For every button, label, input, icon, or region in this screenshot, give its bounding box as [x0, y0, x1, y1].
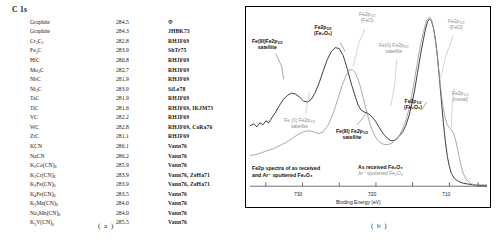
cell-reference: RHJF69 — [168, 54, 240, 64]
cell-binding-energy: 281.1 — [116, 131, 168, 141]
table-row: K3Mn(CN)6284.0Vann76 — [12, 197, 240, 207]
cell-binding-energy: 281.6 — [116, 102, 168, 112]
c1s-heading: C 1s — [12, 5, 27, 14]
cell-binding-energy: 281.9 — [116, 92, 168, 102]
cell-species: NaCN — [12, 150, 116, 160]
x-axis-title: Binding Energy (eV) — [336, 199, 381, 205]
cell-binding-energy: 282.7 — [116, 64, 168, 74]
cell-reference: RHJF69 — [168, 64, 240, 74]
c1s-table-body: Graphite284.5ΦGraphite284.3JHBK73Cr3C228… — [12, 16, 240, 226]
cell-species: K3Cr(CN)6 — [12, 169, 116, 179]
cell-reference: Vann76, ZeHa71 — [168, 178, 240, 188]
cell-binding-energy: 283.9 — [116, 83, 168, 93]
cell-binding-energy: 280.8 — [116, 54, 168, 64]
cell-species: NbC — [12, 73, 116, 83]
cell-reference: RHJF69, CoRa76 — [168, 121, 240, 131]
table-row: K3Co(CN)6285.9Vann76 — [12, 159, 240, 169]
cell-binding-energy: 286.1 — [116, 140, 168, 150]
cell-binding-energy: 282.8 — [116, 35, 168, 45]
cell-binding-energy: 286.2 — [116, 150, 168, 160]
figure-root: C 1s Graphite284.5ΦGraphite284.3JHBK73Cr… — [0, 0, 497, 243]
cell-binding-energy: 281.9 — [116, 73, 168, 83]
cell-reference: RHJF69 — [168, 111, 240, 121]
cell-species: K4Fe(CN)6 — [12, 188, 116, 198]
cell-species: Ni3C — [12, 83, 116, 93]
cell-species: Mo2C — [12, 64, 116, 74]
cell-reference: Vann76 — [168, 216, 240, 226]
table-row: Na3Mn(CN)6284.0Vann76 — [12, 207, 240, 217]
cell-reference: Vann76 — [168, 188, 240, 198]
table-row: KCN286.1Vann76 — [12, 140, 240, 150]
cell-reference: RHJF69 — [168, 92, 240, 102]
cell-species: HfC — [12, 54, 116, 64]
cell-binding-energy: 283.9 — [116, 178, 168, 188]
cell-reference: RHJF69 — [168, 131, 240, 141]
cell-species: KCN — [12, 140, 116, 150]
table-row: K4Fe(CN)6283.5Vann76 — [12, 188, 240, 198]
cell-species: TiC — [12, 102, 116, 112]
panel-a-c1s-table: C 1s Graphite284.5ΦGraphite284.3JHBK73Cr… — [0, 0, 243, 243]
table-row: VC282.2RHJF69 — [12, 111, 240, 121]
cell-species: ZrC — [12, 131, 116, 141]
table-row: TaC281.9RHJF69 — [12, 92, 240, 102]
cell-reference: RHJF69, IKJM73 — [168, 102, 240, 112]
cell-binding-energy: 283.9 — [116, 169, 168, 179]
table-row: NbC281.9RHJF69 — [12, 73, 240, 83]
table-row: K3Fe(CN)6283.9Vann76, ZeHa71 — [12, 178, 240, 188]
caption-b: ( b ) — [371, 222, 388, 230]
cell-species: VC — [12, 111, 116, 121]
cell-reference: Vann76 — [168, 159, 240, 169]
cell-binding-energy: 284.3 — [116, 26, 168, 36]
cell-binding-energy: 285.9 — [116, 159, 168, 169]
cell-reference: SiLe78 — [168, 83, 240, 93]
table-row: Ni3C283.9SiLe78 — [12, 83, 240, 93]
cell-binding-energy: 282.2 — [116, 111, 168, 121]
cell-species: WC — [12, 121, 116, 131]
x-tick-label-730: 730 — [294, 191, 302, 197]
table-row: Fe3C283.9ShTr75 — [12, 45, 240, 55]
table-row: Cr3C2282.8RHJF69 — [12, 35, 240, 45]
table-row: NaCN286.2Vann76 — [12, 150, 240, 160]
cell-binding-energy: 283.9 — [116, 45, 168, 55]
cell-species: TaC — [12, 92, 116, 102]
cell-reference: Vann76 — [168, 150, 240, 160]
x-tick-label-720: 720 — [368, 191, 376, 197]
cell-reference: RHJF69 — [168, 73, 240, 83]
cell-reference: Φ — [168, 16, 240, 26]
cell-reference: Vann76 — [168, 197, 240, 207]
cell-species: Graphite — [12, 26, 116, 36]
cell-binding-energy: 284.0 — [116, 207, 168, 217]
cell-binding-energy: 283.5 — [116, 188, 168, 198]
cell-species: K3Fe(CN)6 — [12, 178, 116, 188]
table-row: WC282.8RHJF69, CoRa76 — [12, 121, 240, 131]
cell-species: Graphite — [12, 16, 116, 26]
table-row: Graphite284.5Φ — [12, 16, 240, 26]
table-row: K3V(CN)6285.5Vann76 — [12, 216, 240, 226]
cell-binding-energy: 284.0 — [116, 197, 168, 207]
table-row: K3Cr(CN)6283.9Vann76, ZeHa71 — [12, 169, 240, 179]
c1s-reference-table: Graphite284.5ΦGraphite284.3JHBK73Cr3C228… — [12, 16, 240, 226]
x-axis-ticks — [266, 182, 478, 186]
spectrum-plot-frame: Fe(III)Fe2p3/2 satellite Fe2p3/2 (Fe₂O₃)… — [245, 6, 491, 208]
cell-species: K3Co(CN)6 — [12, 159, 116, 169]
caption-a: ( a ) — [98, 222, 114, 230]
cell-reference: JHBK73 — [168, 26, 240, 36]
cell-reference: ShTr75 — [168, 45, 240, 55]
cell-reference: RHJF69 — [168, 35, 240, 45]
cell-species: K3Mn(CN)6 — [12, 197, 116, 207]
cell-binding-energy: 284.5 — [116, 16, 168, 26]
x-tick-label-710: 710 — [442, 191, 450, 197]
panel-b-xps-spectrum: Fe(III)Fe2p3/2 satellite Fe2p3/2 (Fe₂O₃)… — [243, 4, 495, 212]
table-row: HfC280.8RHJF69 — [12, 54, 240, 64]
cell-binding-energy: 285.5 — [116, 216, 168, 226]
table-row: TiC281.6RHJF69, IKJM73 — [12, 102, 240, 112]
cell-reference: Vann76 — [168, 140, 240, 150]
x-axis — [246, 7, 490, 207]
table-row: ZrC281.1RHJF69 — [12, 131, 240, 141]
cell-reference: Vann76 — [168, 207, 240, 217]
table-row: Graphite284.3JHBK73 — [12, 26, 240, 36]
cell-reference: Vann76, ZeHa71 — [168, 169, 240, 179]
cell-species: Fe3C — [12, 45, 116, 55]
cell-binding-energy: 282.8 — [116, 121, 168, 131]
table-row: Mo2C282.7RHJF69 — [12, 64, 240, 74]
